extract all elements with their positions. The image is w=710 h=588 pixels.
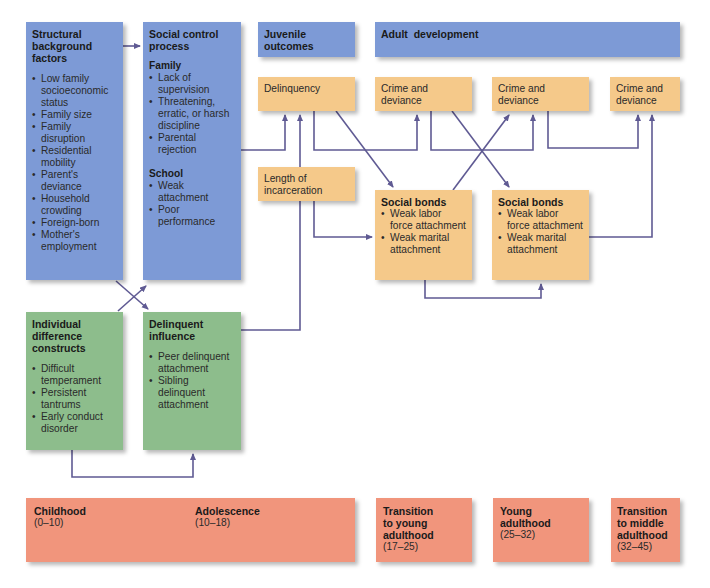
- list-item: Persistent tantrums: [32, 387, 117, 411]
- list-item: Mother's employment: [32, 229, 117, 253]
- delinquent-influence-box: Delinquent influence Peer delinquent att…: [143, 312, 241, 450]
- timeline-young-adulthood: Young adulthood (25–32): [493, 498, 589, 562]
- crime-deviance-box-1: Crime and deviance: [375, 77, 472, 111]
- transition-middle-range: (32–45): [617, 541, 674, 553]
- social-bonds-list: Weak labor force attachment Weak marital…: [498, 208, 583, 256]
- list-item: Sibling delinquent attachment: [149, 375, 235, 411]
- list-item: Weak attachment: [149, 180, 235, 204]
- young-adulthood-label: Young adulthood: [500, 505, 560, 529]
- list-item: Low family socioeconomic status: [32, 73, 117, 109]
- family-list: Lack of supervision Threatening, erratic…: [149, 72, 235, 156]
- incarceration-box: Length of incarceration: [258, 167, 355, 201]
- list-item: Parent's deviance: [32, 169, 117, 193]
- transition-young-label: Transition to young adulthood: [383, 505, 445, 541]
- childhood-range: (0–10): [34, 517, 86, 529]
- adult-development-title: Adult development: [381, 28, 674, 40]
- list-item: Family size: [32, 109, 117, 121]
- juvenile-outcomes-header: Juvenile outcomes: [258, 22, 355, 57]
- list-item: Threatening, erratic, or harsh disciplin…: [149, 96, 235, 132]
- school-heading: School: [149, 168, 235, 180]
- school-list: Weak attachment Poor performance: [149, 180, 235, 228]
- timeline-childhood: Childhood (0–10): [34, 505, 86, 529]
- crime-deviance-box-2: Crime and deviance: [492, 77, 589, 111]
- social-bonds-box-1: Social bonds Weak labor force attachment…: [375, 190, 472, 280]
- delinquency-label: Delinquency: [264, 83, 320, 94]
- social-control-title: Social control process: [149, 28, 235, 52]
- list-item: Weak marital attachment: [381, 232, 466, 256]
- social-control-box: Social control process Family Lack of su…: [143, 22, 241, 280]
- adolescence-label: Adolescence: [195, 505, 260, 517]
- crime-deviance-label: Crime and deviance: [616, 83, 663, 106]
- social-bonds-title: Social bonds: [381, 196, 466, 208]
- social-bonds-box-2: Social bonds Weak labor force attachment…: [492, 190, 589, 280]
- social-bonds-list: Weak labor force attachment Weak marital…: [381, 208, 466, 256]
- family-heading: Family: [149, 60, 235, 72]
- childhood-label: Childhood: [34, 505, 86, 517]
- timeline-transition-middle: Transition to middle adulthood (32–45): [611, 498, 680, 562]
- adult-development-header: Adult development: [375, 22, 680, 57]
- social-bonds-title: Social bonds: [498, 196, 583, 208]
- list-item: Lack of supervision: [149, 72, 235, 96]
- crime-deviance-box-3: Crime and deviance: [610, 77, 680, 111]
- list-item: Household crowding: [32, 193, 117, 217]
- list-item: Family disruption: [32, 121, 117, 145]
- individual-title: Individual difference constructs: [32, 318, 117, 354]
- crime-deviance-label: Crime and deviance: [381, 83, 428, 106]
- list-item: Foreign-born: [32, 217, 117, 229]
- list-item: Weak labor force attachment: [498, 208, 583, 232]
- structural-background-box: Structural background factors Low family…: [26, 22, 123, 280]
- timeline-childhood-adolescence: Childhood (0–10) Adolescence (10–18): [26, 498, 355, 562]
- delinquent-influence-title: Delinquent influence: [149, 318, 235, 342]
- individual-difference-box: Individual difference constructs Difficu…: [26, 312, 123, 450]
- young-adulthood-range: (25–32): [500, 529, 582, 541]
- delinquent-influence-list: Peer delinquent attachment Sibling delin…: [149, 351, 235, 411]
- list-item: Early conduct disorder: [32, 411, 117, 435]
- list-item: Residential mobility: [32, 145, 117, 169]
- transition-young-range: (17–25): [383, 541, 465, 553]
- adolescence-range: (10–18): [195, 517, 260, 529]
- incarceration-label: Length of incarceration: [264, 173, 322, 196]
- structural-list: Low family socioeconomic status Family s…: [32, 73, 117, 253]
- list-item: Weak marital attachment: [498, 232, 583, 256]
- list-item: Parental rejection: [149, 132, 235, 156]
- timeline-transition-young: Transition to young adulthood (17–25): [376, 498, 472, 562]
- individual-list: Difficult temperament Persistent tantrum…: [32, 363, 117, 435]
- list-item: Poor performance: [149, 204, 235, 228]
- juvenile-outcomes-title: Juvenile outcomes: [264, 28, 349, 52]
- timeline-adolescence: Adolescence (10–18): [195, 505, 260, 529]
- list-item: Peer delinquent attachment: [149, 351, 235, 375]
- structural-title: Structural background factors: [32, 28, 117, 64]
- list-item: Weak labor force attachment: [381, 208, 466, 232]
- list-item: Difficult temperament: [32, 363, 117, 387]
- delinquency-box: Delinquency: [258, 77, 355, 111]
- crime-deviance-label: Crime and deviance: [498, 83, 545, 106]
- transition-middle-label: Transition to middle adulthood: [617, 505, 674, 541]
